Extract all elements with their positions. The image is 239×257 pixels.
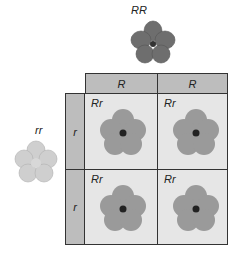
punnett-cell-4: Rr (157, 169, 228, 245)
offspring-flower-icon (99, 108, 147, 158)
header-allele-1: R (85, 73, 158, 94)
header-allele-2: R (157, 73, 228, 94)
top-parent-flower-icon (128, 20, 178, 66)
offspring-flower-icon (172, 108, 220, 158)
side-allele-2: r (65, 169, 85, 245)
offspring-flower-icon (99, 184, 147, 234)
offspring-flower-icon (172, 184, 220, 234)
left-parent-genotype: rr (35, 124, 42, 136)
punnett-cell-2: Rr (157, 93, 228, 170)
side-allele-1: r (65, 93, 85, 170)
punnett-cell-1: Rr (84, 93, 158, 170)
left-parent-flower-icon (13, 140, 59, 186)
punnett-cell-3: Rr (84, 169, 158, 245)
top-parent-genotype: RR (131, 4, 147, 16)
